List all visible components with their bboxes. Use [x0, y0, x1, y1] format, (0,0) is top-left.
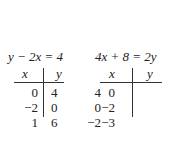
header-y: y: [56, 66, 62, 82]
equation-text: 4x + 8 = 2y: [95, 49, 157, 64]
equation-right: 4x + 8 = 2y: [95, 49, 157, 65]
equation-text: y − 2x = 4: [8, 49, 63, 64]
cell-x: −2: [0, 100, 38, 116]
cell-x: 0: [0, 85, 38, 101]
cell-y: −2: [81, 115, 101, 131]
cell-x: 1: [0, 115, 38, 131]
cell-y: 0: [51, 100, 58, 116]
cell-y: 4: [51, 85, 58, 101]
header-x: x: [109, 66, 115, 82]
header-x: x: [22, 66, 28, 82]
cell-y: 4: [81, 85, 101, 101]
header-y: y: [147, 66, 153, 82]
header-divider: [14, 82, 64, 83]
cell-y: 0: [81, 100, 101, 116]
column-divider: [132, 68, 133, 117]
header-divider: [100, 82, 162, 83]
column-divider: [43, 68, 44, 117]
cell-y: 6: [51, 115, 58, 131]
equation-left: y − 2x = 4: [8, 49, 63, 65]
